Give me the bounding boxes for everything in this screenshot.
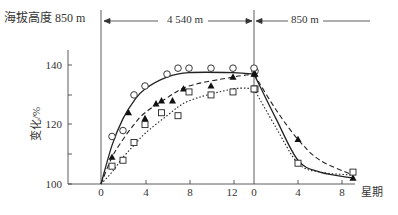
triangle-marker-icon	[230, 73, 237, 79]
circle-marker-icon	[109, 133, 116, 140]
arrow-left-icon	[256, 19, 262, 24]
x-tick-label: 8	[187, 186, 193, 198]
x-tick-label: 4	[295, 186, 301, 198]
solid-curve-return	[254, 74, 353, 178]
circle-marker-icon	[142, 83, 149, 90]
triangle-marker-icon	[208, 82, 215, 88]
x-tick-label: 4	[143, 186, 149, 198]
circle-marker-icon	[131, 92, 138, 99]
x-tick-label: 12	[227, 186, 238, 198]
square-marker-icon	[350, 169, 356, 175]
altitude-change-chart: 海拔高度 850 m 4 540 m 850 m 100 120 140 变化/…	[0, 0, 398, 215]
x-tick-label: 8	[339, 186, 345, 198]
dotted-curve-high	[101, 88, 255, 184]
dashed-curve-return	[254, 74, 353, 175]
x-axis-title: 星期	[361, 186, 383, 198]
square-marker-icon	[131, 139, 137, 145]
square-marker-icon	[208, 92, 214, 98]
arrow-left-icon	[104, 19, 110, 24]
square-marker-icon	[230, 89, 236, 95]
y-tick-label: 120	[46, 118, 63, 130]
circle-marker-icon	[230, 65, 237, 72]
x-tick-label: 0	[98, 186, 104, 198]
data-markers	[109, 65, 357, 181]
high-altitude-segment-label: 4 540 m	[167, 13, 204, 25]
circle-marker-icon	[208, 65, 215, 72]
x-axis	[68, 180, 355, 184]
square-marker-icon	[109, 163, 115, 169]
circle-marker-icon	[186, 65, 193, 72]
triangle-marker-icon	[169, 97, 176, 103]
x-tick-labels: 0 4 8 12 0 4 8	[98, 186, 345, 198]
y-tick-label: 100	[46, 178, 63, 190]
altitude-label: 海拔高度 850 m	[4, 10, 86, 25]
square-marker-icon	[142, 122, 148, 128]
arrow-right-icon	[246, 19, 252, 24]
square-marker-icon	[159, 110, 165, 116]
square-marker-icon	[120, 157, 126, 163]
dotted-curve-return	[254, 89, 353, 175]
circle-marker-icon	[164, 71, 171, 78]
square-marker-icon	[186, 89, 192, 95]
triangle-marker-icon	[142, 115, 149, 121]
circle-marker-icon	[120, 127, 127, 134]
return-segment-label: 850 m	[291, 13, 319, 25]
curves	[101, 72, 353, 184]
y-axis-title: 变化/%	[29, 107, 42, 141]
y-tick-label: 140	[46, 59, 63, 71]
square-marker-icon	[175, 113, 181, 119]
y-axis	[68, 60, 72, 184]
square-marker-icon	[251, 86, 257, 92]
segment-arrows	[68, 19, 370, 61]
square-marker-icon	[295, 160, 301, 166]
circle-marker-icon	[175, 65, 182, 72]
x-tick-label: 0	[251, 186, 257, 198]
